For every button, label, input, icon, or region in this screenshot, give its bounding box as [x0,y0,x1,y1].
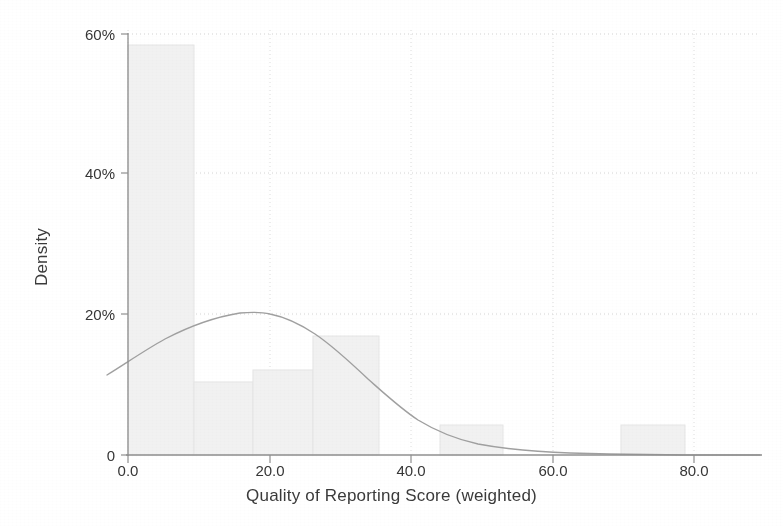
y-tick-label-20: 20% [55,306,115,323]
bar-bin-4 [313,336,379,455]
x-tick-label-40: 40.0 [396,462,425,479]
plot-canvas [0,0,783,526]
gridlines-horizontal [128,34,760,314]
y-tick-label-40: 40% [55,165,115,182]
bar-bin-1 [128,45,194,455]
bar-bin-9 [621,425,685,455]
bar-bin-2 [194,382,253,455]
y-axis-ticks [121,34,128,455]
bar-bin-3 [253,370,313,455]
histogram-bars [128,45,685,455]
y-tick-label-60: 60% [55,26,115,43]
x-tick-label-60: 60.0 [538,462,567,479]
y-axis-label: Density [32,197,52,317]
x-axis-label: Quality of Reporting Score (weighted) [0,486,783,506]
density-histogram-figure: 60% 40% 20% 0 0.0 20.0 40.0 60.0 80.0 Qu… [0,0,783,526]
x-tick-label-20: 20.0 [255,462,284,479]
bar-bin-6 [440,425,503,455]
x-tick-label-80: 80.0 [679,462,708,479]
y-tick-label-0: 0 [55,447,115,464]
x-tick-label-0: 0.0 [118,462,139,479]
